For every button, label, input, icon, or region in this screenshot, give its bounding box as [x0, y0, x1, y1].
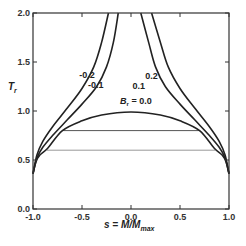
x-tick-label: 1.0 — [223, 212, 236, 222]
curve-br-0.2 — [33, 13, 108, 174]
curve-br0.2 — [152, 13, 229, 174]
x-tick-label: -0.5 — [74, 212, 90, 222]
x-tick-label: 0.5 — [174, 212, 187, 222]
curve-label: 0.1 — [133, 81, 146, 91]
y-tick-labels: 0.00.51.01.52.0 — [17, 8, 30, 214]
y-tick-label: 2.0 — [17, 8, 30, 18]
y-tick-label: 1.0 — [17, 106, 30, 116]
curve-labels: -0.2-0.10.10.2Br = 0.0 — [79, 70, 158, 107]
y-axis-title: Tr — [8, 81, 18, 94]
curve-label: 0.2 — [145, 71, 158, 81]
curves — [33, 13, 229, 174]
curve-br0.0 — [33, 112, 229, 174]
reference-lines — [47, 131, 216, 151]
y-tick-label: 1.5 — [17, 57, 30, 67]
curve-label: -0.2 — [79, 70, 95, 80]
x-axis-title: s = M/Mmax — [104, 219, 156, 232]
curve-label: Br = 0.0 — [120, 96, 152, 107]
curve-label: -0.1 — [88, 80, 104, 90]
chart: -1.0-0.50.00.51.0 0.00.51.01.52.0 -0.2-0… — [0, 0, 246, 246]
plot-frame — [33, 13, 229, 209]
y-tick-label: 0.5 — [17, 155, 30, 165]
axis-ticks — [33, 13, 229, 209]
y-tick-label: 0.0 — [17, 204, 30, 214]
